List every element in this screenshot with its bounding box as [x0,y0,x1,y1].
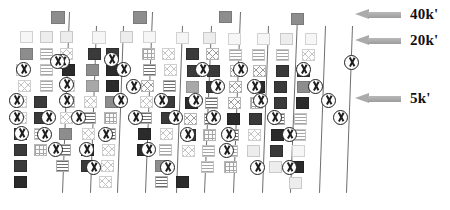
circled-x-icon [321,93,336,108]
gel-band [34,144,47,156]
gel-band [138,128,151,140]
circled-x-icon [333,110,348,125]
gel-band [206,48,219,60]
gel-band [176,176,189,188]
gel-band [276,65,289,77]
gel-band [163,80,176,92]
circled-x-icon [9,110,24,125]
gel-band [159,144,172,156]
legend-label-40k: 40k' [410,6,438,23]
gel-band [176,32,189,44]
circled-x-icon [37,127,52,142]
gel-band [18,80,31,92]
circled-x-icon [126,79,141,94]
gel-band [202,145,215,157]
gel-band [164,64,177,76]
gel-band [14,160,27,172]
gel-band [120,31,133,43]
circled-x-icon [233,62,248,77]
gel-band [201,161,214,173]
circled-x-icon [48,142,63,157]
gel-band [162,48,175,60]
gel-band [92,31,106,44]
circled-x-icon [195,62,210,77]
gel-band [20,48,33,60]
circled-x-icon [160,160,175,175]
circled-x-icon [113,93,128,108]
circled-x-icon [14,126,29,141]
circled-x-icon [141,142,156,157]
gel-band [14,144,27,156]
gel-band [160,128,173,140]
circled-x-icon [50,54,65,69]
gel-band [253,65,266,77]
gel-band [229,81,242,93]
lane-separator [346,26,353,193]
gel-band [274,97,287,109]
gel-band [184,113,197,125]
gel-band [276,49,289,61]
gel-band [292,145,305,157]
gel-band [88,48,101,60]
gel-band [269,161,282,173]
circled-x-icon [79,142,94,157]
circled-x-icon [282,160,297,175]
circled-x-icon [250,160,265,175]
well-marker [291,13,304,25]
well-marker [219,11,232,23]
gel-band [294,113,307,125]
gel-band [305,33,317,45]
left-arrow-icon [355,93,401,104]
circled-x-icon [98,127,113,142]
gel-band [270,145,283,157]
circled-x-icon [41,110,56,125]
circled-x-icon [296,62,311,77]
circled-x-icon [210,79,225,94]
gel-band [227,113,240,125]
gel-band [274,81,287,93]
gel-band [252,49,265,61]
gel-band [205,97,218,109]
circled-x-icon [116,62,131,77]
gel-band [40,80,53,92]
gel-band [142,48,155,60]
legend-row-5k: 5k' [355,90,431,107]
circled-x-icon [206,110,221,125]
circled-x-icon [221,127,236,142]
circled-x-icon [104,52,119,67]
gel-band [101,160,114,172]
gel-band [296,97,309,109]
gel-band [82,128,95,140]
gel-band [228,97,241,109]
gel-band [99,176,112,188]
gel-band [247,145,260,157]
gel-band [224,161,237,173]
gel-band [86,64,99,76]
gel-band [229,49,242,61]
gel-band [86,80,99,92]
gel-band [141,80,154,92]
gel-band [140,96,153,108]
circled-x-icon [9,93,24,108]
circled-x-icon [59,93,74,108]
circled-x-icon [59,77,74,92]
legend-row-40k: 40k' [355,6,438,23]
gel-band [56,160,69,172]
circled-x-icon [282,127,297,142]
gel-band [20,31,33,43]
lane-separator [319,26,326,193]
gel-band [203,32,216,44]
gel-band [228,33,241,45]
circled-x-icon [219,143,234,158]
gel-band [102,144,115,156]
well-marker [133,11,147,24]
gel-band [249,113,262,125]
left-arrow-icon [355,9,401,20]
gel-band [106,80,119,92]
circled-x-icon [128,110,143,125]
gel-band [248,129,261,141]
circled-x-icon [86,160,101,175]
circled-x-icon [344,55,359,70]
gel-band [143,64,156,76]
gel-band [182,145,195,157]
